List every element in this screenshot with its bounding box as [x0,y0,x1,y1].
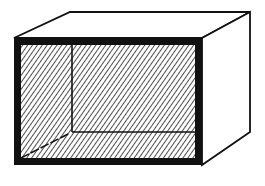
right-face [202,12,250,165]
front-face-hatched [17,41,199,162]
box-diagram [0,0,265,186]
